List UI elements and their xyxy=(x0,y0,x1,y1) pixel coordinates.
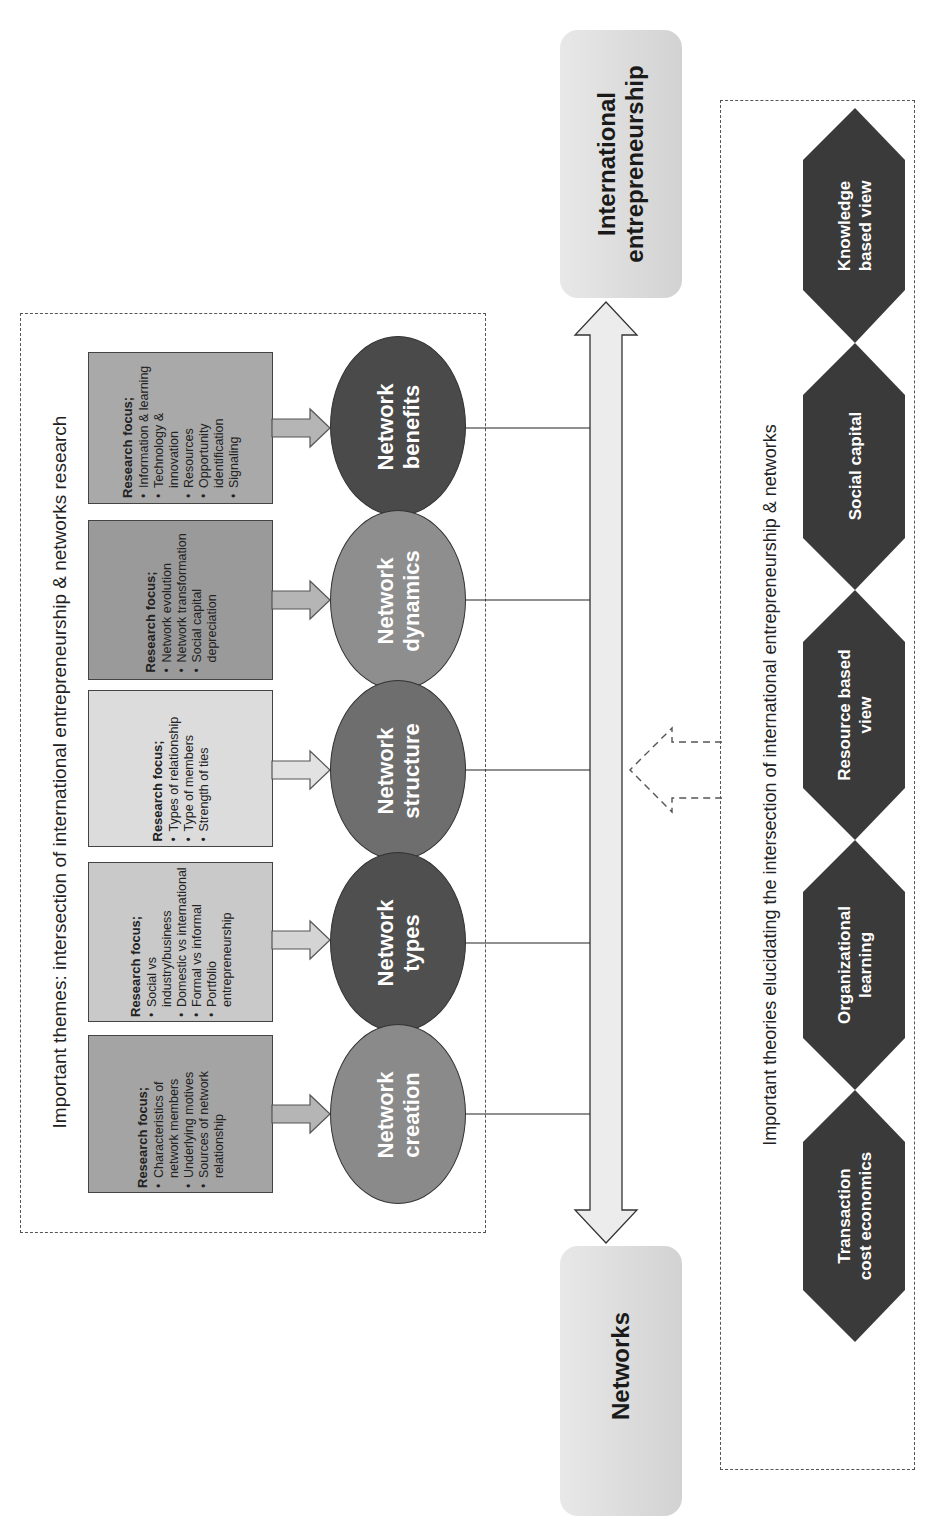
hex-label-knowledge: Knowledge based view xyxy=(834,181,876,272)
hex-label-transaction-cost: Transaction cost economics xyxy=(834,1152,876,1281)
hex-label-line: Organizational xyxy=(834,906,855,1024)
hex-label-social-capital: Social capital xyxy=(845,412,866,521)
hex-label-line: Resource based xyxy=(834,649,855,780)
hex-label-line: cost economics xyxy=(855,1152,876,1281)
hex-label-line: Transaction xyxy=(834,1152,855,1281)
hex-label-line: Knowledge xyxy=(834,181,855,272)
hex-label-line: learning xyxy=(855,906,876,1024)
hex-label-line: based view xyxy=(855,181,876,272)
hex-label-line: Social capital xyxy=(845,412,866,521)
hex-label-line: view xyxy=(855,649,876,780)
hex-label-organizational-learning: Organizational learning xyxy=(834,906,876,1024)
hex-label-resource-based: Resource based view xyxy=(834,649,876,780)
